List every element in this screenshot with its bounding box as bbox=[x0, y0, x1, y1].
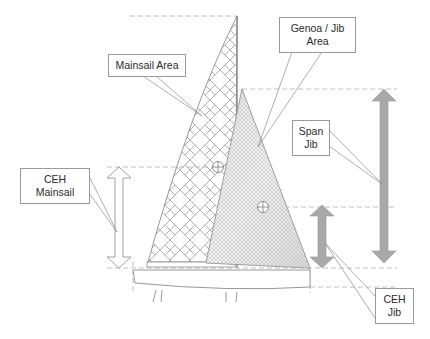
genoa-jib-area-label: Genoa / Jib Area bbox=[279, 17, 356, 53]
ceh-jib-text-2: Jib bbox=[388, 306, 401, 319]
mainsail-area-label: Mainsail Area bbox=[108, 54, 186, 77]
ceh-jib-text-1: CEH bbox=[383, 293, 405, 306]
ceh-mainsail-leader bbox=[89, 176, 117, 232]
ceh-jib-label: CEH Jib bbox=[375, 288, 414, 324]
ceh-mainsail-text-2: Mainsail bbox=[36, 186, 75, 199]
genoa-jib-area-text-2: Area bbox=[306, 35, 328, 48]
ceh-mainsail-text-1: CEH bbox=[44, 173, 66, 186]
ceh-mainsail-label: CEH Mainsail bbox=[20, 168, 90, 204]
span-jib-text-1: Span bbox=[299, 125, 324, 138]
hull bbox=[133, 270, 310, 302]
ceh-mainsail-arrow bbox=[107, 167, 131, 268]
ceh-jib-arrow bbox=[310, 205, 334, 268]
span-jib-leader bbox=[329, 130, 382, 184]
span-jib-arrow bbox=[372, 89, 396, 263]
genoa-jib-area-text-1: Genoa / Jib bbox=[291, 22, 345, 35]
span-jib-label: Span Jib bbox=[292, 120, 330, 156]
ceh-jib-leader bbox=[325, 243, 375, 318]
span-jib-text-2: Jib bbox=[304, 138, 317, 151]
mainsail-area-text: Mainsail Area bbox=[115, 59, 178, 72]
mainsail-area-leader bbox=[143, 76, 202, 116]
